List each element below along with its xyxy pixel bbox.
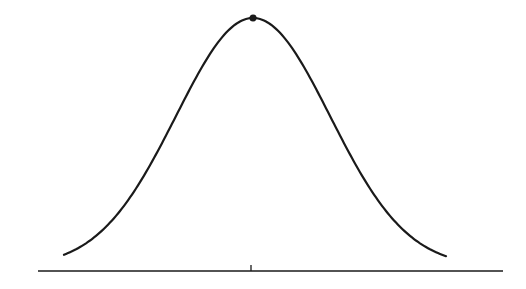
normal-distribution-curve <box>64 18 446 256</box>
bell-curve-diagram <box>0 0 526 289</box>
peak-marker <box>250 15 257 22</box>
